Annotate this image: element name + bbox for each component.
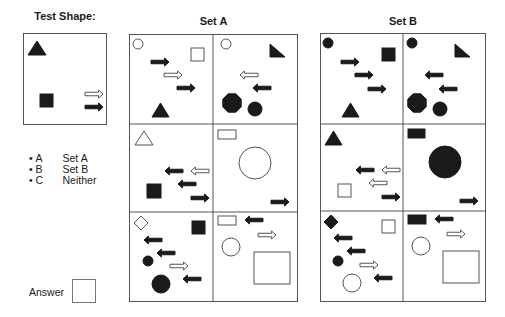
set-b-heading: Set B [320,15,486,27]
option-key: C [36,174,60,186]
test-shape-box [23,33,107,125]
set-b-box [320,33,486,302]
set-a-heading: Set A [129,15,298,27]
option-c[interactable]: • C Neither [29,174,96,186]
answer-label: Answer [29,286,64,298]
option-bullet: • [29,174,33,186]
answer-input-box[interactable] [72,279,96,303]
option-label: Neither [63,174,97,186]
test-shape-heading: Test Shape: [15,10,115,22]
set-a-box [129,34,298,302]
